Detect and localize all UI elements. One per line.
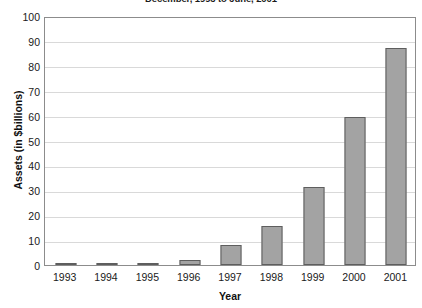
bar-slot: [376, 18, 417, 265]
y-tick-label: 100: [6, 12, 40, 23]
y-tick-label: 40: [6, 161, 40, 172]
bar-chart: December, 1993 to June, 2001 Assets (in …: [0, 0, 422, 308]
y-tick-label: 20: [6, 211, 40, 222]
bar-1993[interactable]: [55, 263, 76, 265]
bar-1998[interactable]: [262, 226, 283, 265]
bar-slot: [169, 18, 210, 265]
bar-1999[interactable]: [303, 187, 324, 265]
bar-slot: [86, 18, 127, 265]
bars-layer: [45, 18, 415, 265]
bar-slot: [252, 18, 293, 265]
bar-1997[interactable]: [220, 245, 241, 265]
bar-2001[interactable]: [386, 48, 407, 265]
bar-slot: [210, 18, 251, 265]
y-tick-label: 0: [6, 261, 40, 272]
bar-slot: [128, 18, 169, 265]
bar-slot: [45, 18, 86, 265]
bar-1994[interactable]: [96, 263, 117, 265]
x-axis-title: Year: [44, 290, 416, 302]
y-tick-label: 70: [6, 87, 40, 98]
y-tick-label: 90: [6, 37, 40, 48]
y-tick-label: 80: [6, 62, 40, 73]
bar-slot: [293, 18, 334, 265]
y-tick-label: 60: [6, 112, 40, 123]
bar-1995[interactable]: [138, 263, 159, 265]
x-tick-label-2001: 2001: [370, 271, 420, 283]
gridline-0: [45, 267, 415, 268]
y-tick-label: 10: [6, 236, 40, 247]
y-tick-label: 30: [6, 186, 40, 197]
plot-area: [44, 17, 416, 266]
bar-slot: [334, 18, 375, 265]
y-tick-label: 50: [6, 137, 40, 148]
bar-1996[interactable]: [179, 260, 200, 265]
bar-2000[interactable]: [344, 117, 365, 265]
chart-title: December, 1993 to June, 2001: [0, 0, 422, 4]
